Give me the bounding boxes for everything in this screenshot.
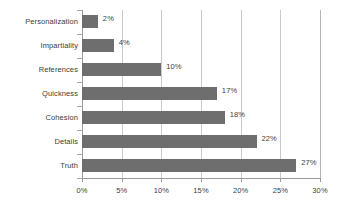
x-axis-tick-label: 15% bbox=[193, 186, 208, 195]
x-axis-tick bbox=[122, 178, 123, 182]
x-axis-tick-label: 20% bbox=[233, 186, 248, 195]
y-axis-label: Personalization bbox=[2, 17, 78, 26]
bar-row: 27% bbox=[82, 154, 320, 178]
y-axis-tick bbox=[77, 58, 82, 59]
bar bbox=[82, 159, 296, 172]
bar-row: 2% bbox=[82, 10, 320, 34]
bar-row: 4% bbox=[82, 34, 320, 58]
y-axis-label: Cohesion bbox=[2, 113, 78, 122]
x-axis-tick bbox=[320, 178, 321, 182]
bar-value-label: 4% bbox=[119, 38, 130, 47]
x-axis-tick-label: 0% bbox=[76, 186, 87, 195]
bar bbox=[82, 87, 217, 100]
y-axis-tick bbox=[77, 106, 82, 107]
bar-row: 10% bbox=[82, 58, 320, 82]
y-axis-label: Details bbox=[2, 137, 78, 146]
bar-row: 17% bbox=[82, 82, 320, 106]
y-axis-tick bbox=[77, 10, 82, 11]
y-axis-tick bbox=[77, 154, 82, 155]
x-axis-tick-label: 5% bbox=[116, 186, 127, 195]
bar-value-label: 18% bbox=[230, 110, 245, 119]
y-axis-label: Truth bbox=[2, 161, 78, 170]
y-axis-label: Impartiality bbox=[2, 41, 78, 50]
bar-value-label: 2% bbox=[103, 14, 114, 23]
bar bbox=[82, 63, 161, 76]
x-axis-tick bbox=[82, 178, 83, 182]
x-axis-tick-label: 30% bbox=[312, 186, 327, 195]
bar-row: 18% bbox=[82, 106, 320, 130]
bar bbox=[82, 135, 257, 148]
bar-chart: PersonalizationImpartialityReferencesQui… bbox=[0, 0, 343, 213]
plot-area: 2%4%10%17%18%22%27% bbox=[82, 10, 320, 178]
x-axis-tick bbox=[241, 178, 242, 182]
bar-value-label: 17% bbox=[222, 86, 237, 95]
bar-value-label: 27% bbox=[301, 158, 316, 167]
bar-value-label: 10% bbox=[166, 62, 181, 71]
x-axis-tick-label: 25% bbox=[273, 186, 288, 195]
x-axis-tick bbox=[161, 178, 162, 182]
y-axis-tick bbox=[77, 178, 82, 179]
bar-value-label: 22% bbox=[262, 134, 277, 143]
bar bbox=[82, 39, 114, 52]
y-axis-label: Quickness bbox=[2, 89, 78, 98]
y-axis-tick bbox=[77, 130, 82, 131]
bar bbox=[82, 111, 225, 124]
x-axis-tick-label: 10% bbox=[154, 186, 169, 195]
y-axis-tick bbox=[77, 82, 82, 83]
x-axis-tick bbox=[201, 178, 202, 182]
bar-row: 22% bbox=[82, 130, 320, 154]
y-axis-label: References bbox=[2, 65, 78, 74]
bar bbox=[82, 15, 98, 28]
y-axis-tick bbox=[77, 34, 82, 35]
x-axis-tick bbox=[280, 178, 281, 182]
gridline-30pct bbox=[320, 10, 321, 178]
y-axis-category-labels: PersonalizationImpartialityReferencesQui… bbox=[0, 10, 78, 178]
